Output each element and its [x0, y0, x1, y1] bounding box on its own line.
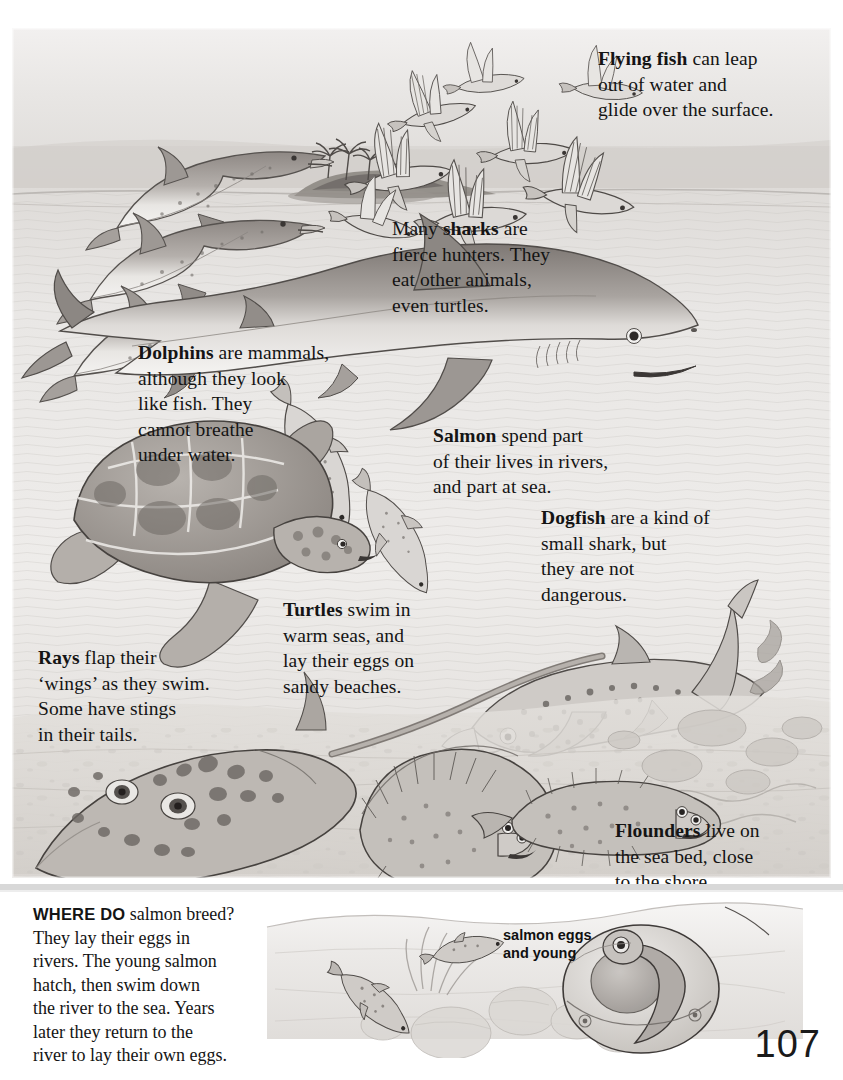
- caption-lead-dogfish: Dogfish: [541, 507, 606, 528]
- main-sea-scene-illustration: [12, 28, 831, 878]
- caption-lead-salmon: Salmon: [433, 425, 496, 446]
- salmon-eggs-label: salmon eggs and young: [503, 926, 592, 962]
- caption-dogfish: Dogfish are a kind of small shark, but t…: [541, 505, 766, 607]
- caption-sharks: Many sharks are fierce hunters. They eat…: [392, 216, 607, 318]
- caption-lead-rays: Rays: [38, 647, 80, 668]
- panel-divider-highlight: [0, 890, 843, 892]
- caption-lead-turtles: Turtles: [283, 599, 343, 620]
- caption-turtles: Turtles swim in warm seas, and lay their…: [283, 597, 483, 699]
- caption-pre-sharks: Many: [392, 218, 443, 239]
- caption-lead-flounders: Flounders: [615, 820, 700, 841]
- caption-rays: Rays flap their ‘wings’ as they swim. So…: [38, 645, 238, 747]
- salmon-river-illustration: [255, 893, 815, 1058]
- caption-lead-sharks: sharks: [443, 218, 499, 239]
- where-do-salmon-breed-text: WHERE DO salmon breed? They lay their eg…: [33, 903, 263, 1068]
- caption-lead-flying-fish: Flying fish: [598, 48, 687, 69]
- page-number: 107: [755, 1023, 821, 1066]
- caption-salmon: Salmon spend part of their lives in rive…: [433, 423, 648, 500]
- book-page: Flying fish can leap out of water and gl…: [0, 0, 843, 1080]
- caption-flying-fish: Flying fish can leap out of water and gl…: [598, 46, 838, 123]
- caption-dolphins: Dolphins are mammals, although they look…: [138, 340, 363, 468]
- bottom-text-body: salmon breed? They lay their eggs in riv…: [33, 904, 234, 1065]
- bottom-text-lead: WHERE DO: [33, 905, 125, 923]
- caption-lead-dolphins: Dolphins: [138, 342, 214, 363]
